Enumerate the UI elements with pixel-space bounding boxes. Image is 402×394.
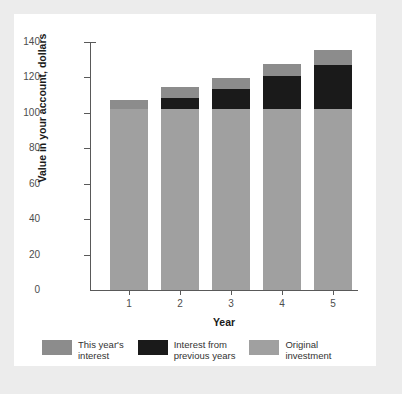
x-tick-1 [129, 290, 130, 295]
x-tick-label-4: 4 [262, 298, 302, 309]
legend-label-interest-previous-years: Interest from previous years [174, 340, 236, 361]
bar-segment-this-years-interest [263, 64, 301, 76]
y-tick-label-60: 60 [0, 179, 40, 189]
bar-group-year-2[interactable] [161, 87, 199, 290]
y-tick-140 [84, 42, 91, 43]
y-tick-80 [84, 148, 91, 149]
y-tick-label-80: 80 [0, 143, 40, 153]
bar-segment-interest-previous-years [263, 76, 301, 110]
y-axis-line [90, 42, 91, 290]
y-tick-label-20: 20 [0, 250, 40, 260]
y-tick-60 [84, 184, 91, 185]
bar-segment-original-investment [161, 109, 199, 290]
bar-segment-this-years-interest [110, 100, 148, 110]
bar-segment-original-investment [212, 109, 250, 290]
x-tick-label-3: 3 [211, 298, 251, 309]
plot-area: 140 120 100 80 60 40 20 0 Value in your … [14, 14, 376, 304]
y-tick-label-100: 100 [0, 108, 40, 118]
y-tick-40 [84, 219, 91, 220]
bar-group-year-3[interactable] [212, 78, 250, 290]
y-tick-label-120: 120 [0, 72, 40, 82]
y-tick-20 [84, 255, 91, 256]
x-axis-title: Year [90, 316, 358, 328]
legend-entry-interest-previous-years[interactable]: Interest from previous years [138, 340, 236, 361]
x-axis-line [90, 290, 358, 291]
y-tick-120 [84, 77, 91, 78]
bar-segment-original-investment [110, 109, 148, 290]
x-tick-2 [180, 290, 181, 295]
x-tick-label-5: 5 [313, 298, 353, 309]
y-tick-100 [84, 113, 91, 114]
chart-figure: 140 120 100 80 60 40 20 0 Value in your … [14, 14, 376, 366]
legend-entry-this-years-interest[interactable]: This year's interest [42, 340, 124, 361]
bar-group-year-5[interactable] [314, 50, 352, 290]
x-tick-5 [333, 290, 334, 295]
chart-legend: This year's interest Interest from previ… [42, 340, 362, 361]
bar-segment-original-investment [263, 109, 301, 290]
bar-segment-this-years-interest [212, 78, 250, 89]
y-tick-label-40: 40 [0, 214, 40, 224]
x-tick-4 [282, 290, 283, 295]
y-axis-title: Value in your account, dollars [36, 8, 48, 208]
bar-group-year-4[interactable] [263, 64, 301, 290]
legend-entry-original-investment[interactable]: Original investment [249, 340, 331, 361]
x-tick-label-1: 1 [109, 298, 149, 309]
bar-segment-interest-previous-years [212, 89, 250, 109]
bar-segment-this-years-interest [314, 50, 352, 65]
bar-segment-this-years-interest [161, 87, 199, 98]
legend-swatch-interest-previous-years [138, 340, 168, 355]
legend-swatch-original-investment [249, 340, 279, 355]
bar-segment-interest-previous-years [161, 98, 199, 110]
bar-group-year-1[interactable] [110, 100, 148, 290]
legend-label-this-years-interest: This year's interest [78, 340, 124, 361]
legend-swatch-this-years-interest [42, 340, 72, 355]
y-tick-label-140: 140 [0, 37, 40, 47]
legend-label-original-investment: Original investment [285, 340, 331, 361]
x-tick-3 [231, 290, 232, 295]
x-tick-label-2: 2 [160, 298, 200, 309]
bar-segment-interest-previous-years [314, 65, 352, 109]
bar-segment-original-investment [314, 109, 352, 290]
y-tick-label-0: 0 [0, 285, 40, 295]
